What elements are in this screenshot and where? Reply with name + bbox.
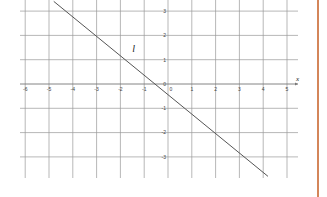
line-l-path — [54, 1, 268, 176]
x-tick-label: -2 — [118, 86, 123, 92]
y-tick-label: -3 — [162, 154, 167, 160]
page-border — [317, 0, 319, 197]
x-tick-label: -6 — [23, 86, 28, 92]
grid-lines — [20, 0, 298, 178]
y-tick-label: 3 — [163, 8, 166, 14]
y-tick-label: 1 — [163, 57, 166, 63]
line-name-label: l — [132, 43, 135, 54]
y-tick-label: 2 — [163, 32, 166, 38]
line-label: l — [132, 43, 135, 54]
x-tick-label: 4 — [262, 86, 265, 92]
y-tick-label: -1 — [162, 105, 167, 111]
x-tick-label: 0 — [170, 86, 173, 92]
y-tick-label: 0 — [163, 81, 166, 87]
x-tick-label: 5 — [286, 86, 289, 92]
x-tick-label: 2 — [214, 86, 217, 92]
line-l — [54, 1, 268, 176]
coordinate-plane: -6-5-4-3-2-10123453210-1-2-3 x l — [0, 0, 327, 197]
x-tick-label: 1 — [190, 86, 193, 92]
x-tick-label: -4 — [71, 86, 76, 92]
x-axis-label: x — [295, 75, 300, 83]
x-tick-label: -5 — [47, 86, 52, 92]
x-tick-label: 3 — [238, 86, 241, 92]
x-tick-label: -1 — [142, 86, 147, 92]
x-tick-label: -3 — [94, 86, 99, 92]
y-tick-label: -2 — [162, 129, 167, 135]
